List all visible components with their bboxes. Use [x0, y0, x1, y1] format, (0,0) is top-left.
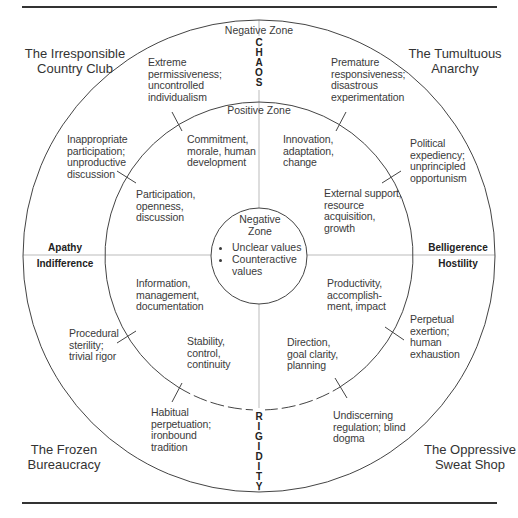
- apathy-label: Apathy: [36, 242, 94, 253]
- pos-sw-bottom: Stability, control, continuity: [187, 336, 230, 371]
- text-line: development: [187, 157, 256, 169]
- core-negative-zone: Negative Zone Unclear values Counteracti…: [214, 213, 306, 277]
- text-line: opportunism: [410, 173, 467, 185]
- pos-se-side: Productivity, accomplish- ment, impact: [327, 278, 386, 313]
- text-line: Productivity,: [327, 278, 386, 290]
- text-line: experimentation: [331, 92, 405, 104]
- corner-line: The Oppressive: [420, 442, 518, 457]
- chaos-label: C H A O S: [254, 38, 264, 88]
- text-line: Inappropriate: [67, 134, 128, 146]
- text-line: uncontrolled: [148, 80, 222, 92]
- neg-ne-top: Premature responsiveness; disastrous exp…: [331, 57, 405, 103]
- outer-negative-zone-label: Negative Zone: [209, 24, 309, 36]
- text-line: unproductive: [67, 157, 128, 169]
- text-line: continuity: [187, 359, 230, 371]
- text-line: dogma: [333, 433, 405, 445]
- pos-ne-top: Innovation, adaptation, change: [283, 134, 334, 169]
- corner-tumultuous-anarchy: The Tumultuous Anarchy: [400, 46, 510, 76]
- neg-nw-top: Extreme permissiveness; uncontrolled ind…: [148, 57, 222, 103]
- competing-values-diagram: The Irresponsible Country Club The Tumul…: [0, 0, 518, 518]
- text-line: discussion: [67, 169, 128, 181]
- text-line: ironbound: [151, 430, 211, 442]
- text-line: Innovation,: [283, 134, 334, 146]
- corner-frozen-bureaucracy: The Frozen Bureaucracy: [14, 442, 114, 472]
- text-line: Habitual: [151, 407, 211, 419]
- text-line: ment, impact: [327, 301, 386, 313]
- text-line: Procedural: [69, 328, 119, 340]
- text-line: unprincipled: [410, 161, 467, 173]
- indifference-label: Indifference: [32, 258, 98, 269]
- text-line: discussion: [136, 212, 195, 224]
- pos-nw-side: Participation, openness, discussion: [136, 189, 195, 224]
- text-line: Stability,: [187, 336, 230, 348]
- pos-sw-side: Information, management, documentation: [136, 278, 204, 313]
- neg-se-side: Perpetual exertion; human exhaustion: [410, 314, 460, 360]
- corner-line: The Frozen: [14, 442, 114, 457]
- text-line: individualism: [148, 92, 222, 104]
- text-line: tradition: [151, 442, 211, 454]
- core-title: Negative: [214, 213, 306, 225]
- text-line: Commitment,: [187, 134, 256, 146]
- corner-line: Sweat Shop: [420, 457, 518, 472]
- text-line: Direction,: [287, 337, 338, 349]
- corner-line: The Irresponsible: [20, 46, 130, 61]
- text-line: disastrous: [331, 80, 405, 92]
- text-line: planning: [287, 360, 338, 372]
- neg-nw-side: Inappropriate participation; unproductiv…: [67, 134, 128, 180]
- bullet-item: Unclear values: [232, 241, 306, 253]
- text-line: Perpetual: [410, 314, 460, 326]
- text-line: growth: [324, 223, 402, 235]
- text-line: Political: [410, 138, 467, 150]
- neg-sw-side: Procedural sterility; trivial rigor: [69, 328, 119, 363]
- text-line: change: [283, 157, 334, 169]
- pos-ne-side: External support, resource acquisition, …: [324, 188, 402, 234]
- corner-line: The Tumultuous: [400, 46, 510, 61]
- corner-irresponsible-country-club: The Irresponsible Country Club: [20, 46, 130, 76]
- text-line: External support,: [324, 188, 402, 200]
- text-line: Premature: [331, 57, 405, 69]
- corner-line: Bureaucracy: [14, 457, 114, 472]
- rigidity-label: R I G I D I T Y: [254, 412, 264, 492]
- text-line: Undiscerning: [333, 410, 405, 422]
- pos-nw-top: Commitment, morale, human development: [187, 134, 256, 169]
- text-line: Participation,: [136, 189, 195, 201]
- letter: Y: [254, 482, 264, 492]
- letter: S: [254, 78, 264, 88]
- positive-zone-label: Positive Zone: [209, 104, 309, 116]
- corner-line: Country Club: [20, 61, 130, 76]
- text-line: exhaustion: [410, 349, 460, 361]
- pos-se-bottom: Direction, goal clarity, planning: [287, 337, 338, 372]
- text-line: Extreme: [148, 57, 222, 69]
- belligerence-label: Belligerence: [422, 242, 494, 253]
- neg-sw-bottom: Habitual perpetuation; ironbound traditi…: [151, 407, 211, 453]
- corner-line: Anarchy: [400, 61, 510, 76]
- neg-ne-side: Political expediency; unprincipled oppor…: [410, 138, 467, 184]
- text-line: trivial rigor: [69, 351, 119, 363]
- bullet-item: Counteractive values: [232, 253, 306, 277]
- core-title: Zone: [214, 225, 306, 237]
- text-line: acquisition,: [324, 211, 402, 223]
- text-line: documentation: [136, 301, 204, 313]
- text-line: human: [410, 337, 460, 349]
- neg-se-bottom: Undiscerning regulation; blind dogma: [333, 410, 405, 445]
- corner-oppressive-sweat-shop: The Oppressive Sweat Shop: [420, 442, 518, 472]
- hostility-label: Hostility: [422, 258, 494, 269]
- text-line: Information,: [136, 278, 204, 290]
- core-bullets: Unclear values Counteractive values: [214, 241, 306, 277]
